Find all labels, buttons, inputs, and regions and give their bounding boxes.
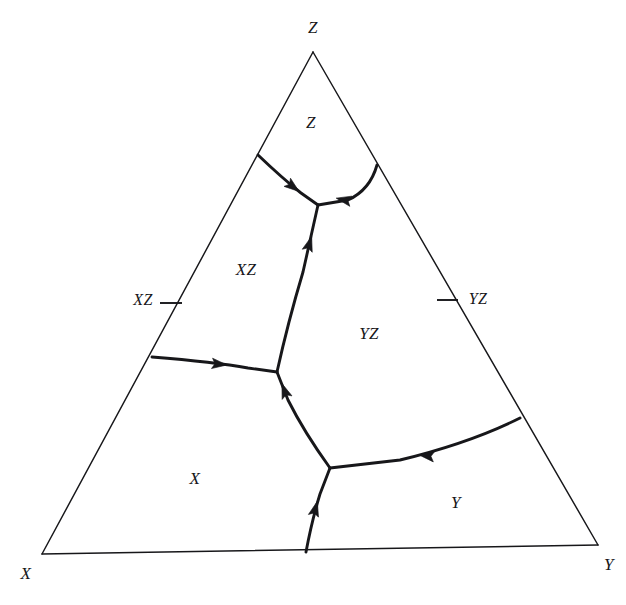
triangle-outline xyxy=(42,52,598,554)
edge-tick-label-yz: YZ xyxy=(469,290,488,307)
edge-tick-label-xz: XZ xyxy=(132,291,153,308)
region-label-xz: XZ xyxy=(235,260,257,279)
phase-boundary-group xyxy=(152,155,520,552)
triangle-bottom-edge xyxy=(42,545,598,554)
corner-label-z: Z xyxy=(308,18,318,37)
y-yz-boundary xyxy=(330,418,520,468)
region-label-y: Y xyxy=(451,493,462,512)
ternary-phase-diagram: Z X Y XZYZ ZXZYZXY xyxy=(0,0,626,605)
edge-tick-group xyxy=(160,300,458,303)
region-label-z: Z xyxy=(306,113,316,132)
corner-label-x: X xyxy=(20,564,32,583)
region-label-group: ZXZYZXY xyxy=(189,113,462,512)
xz-yz-boundary xyxy=(277,205,318,372)
x-yz-boundary-arrow xyxy=(277,382,292,400)
x-yz-boundary xyxy=(277,372,330,468)
edge-tick-label-group: XZYZ xyxy=(132,290,488,308)
boundary-arrow-group xyxy=(211,178,434,517)
region-label-x: X xyxy=(189,469,201,488)
ternary-diagram-canvas: Z X Y XZYZ ZXZYZXY xyxy=(0,0,626,605)
corner-label-y: Y xyxy=(604,555,615,574)
z-xz-boundary xyxy=(258,155,318,205)
triangle-right-edge xyxy=(313,52,598,545)
region-label-yz: YZ xyxy=(359,324,379,343)
